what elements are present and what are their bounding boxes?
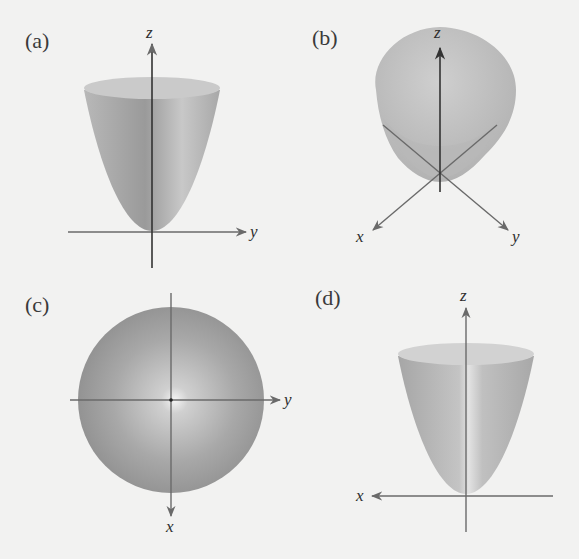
z-axis-label-a: z	[145, 23, 153, 42]
paraboloid-figure: (a) z y (b) z x y (c) x y (d) z	[0, 0, 579, 559]
panel-label-a: (a)	[25, 28, 49, 53]
x-axis-label-b: x	[355, 227, 364, 246]
y-axis-label-b: y	[510, 227, 520, 246]
y-axis-label-a: y	[248, 222, 258, 241]
x-axis-label-d: x	[355, 486, 364, 505]
z-axis-label-d: z	[459, 286, 467, 305]
panel-label-c: (c)	[25, 292, 49, 317]
panel-c: (c) x y	[25, 292, 292, 536]
origin-point-c	[169, 398, 173, 402]
z-axis-label-b: z	[433, 23, 441, 42]
panel-b: (b) z x y	[312, 23, 520, 246]
panel-label-d: (d)	[315, 285, 341, 310]
y-axis-label-c: y	[282, 390, 292, 409]
panel-label-b: (b)	[312, 25, 338, 50]
x-axis-label-c: x	[165, 517, 174, 536]
panel-a: (a) z y	[25, 23, 258, 268]
panel-d: (d) z x	[315, 285, 553, 532]
